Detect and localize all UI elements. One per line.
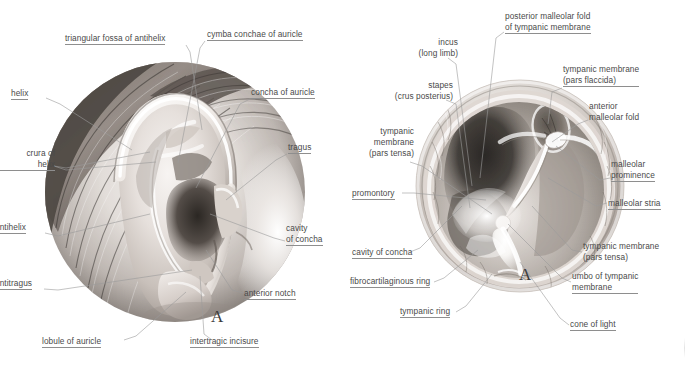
label-line: prominence (611, 170, 655, 182)
label-posterior-malleolar-fold: posterior malleolar fold of tympanic mem… (505, 11, 591, 34)
label-line: cavity (286, 223, 323, 234)
label-tympanic-membrane-pars-tensa-right: tympanic membrane (pars tensa) (583, 241, 659, 263)
label-line: (long limb) (408, 48, 458, 59)
label-tympanic-membrane-pars-tensa-left: tympanic membrane (pars tensa) (356, 126, 414, 159)
label-line: promontory (352, 188, 395, 200)
label-line: cavity of concha (352, 247, 412, 259)
label-tympanic-ring: tympanic ring (400, 306, 450, 318)
label-line: anterior (589, 101, 639, 112)
label-cymba-conchae-of-auricle: cymba conchae of auricle (207, 29, 303, 41)
label-line: posterior malleolar fold (505, 11, 591, 22)
label-anterior-malleolar-fold: anterior malleolar fold (589, 101, 639, 123)
edge-artifact (684, 338, 685, 358)
label-line: cone of light (570, 319, 616, 331)
label-umbo-of-tympanic-membrane: umbo of tympanic membrane (572, 271, 638, 294)
label-line: malleolar stria (608, 198, 661, 210)
label-stapes-crus-posterius: stapes (crus posterius) (373, 80, 453, 102)
label-line: (pars flaccida) (563, 75, 639, 87)
label-line: lobule of auricle (42, 336, 101, 348)
label-antihelix: antihelix (0, 222, 26, 234)
label-line: tympanic membrane (563, 64, 639, 75)
label-line: membrane (356, 137, 414, 148)
label-line: tympanic ring (400, 306, 450, 318)
label-cavity-of-concha: cavity of concha (286, 223, 323, 246)
label-line: of tympanic membrane (505, 22, 591, 34)
label-line: incus (408, 37, 458, 48)
label-line: antihelix (0, 222, 26, 234)
anatomy-plate: triangular fossa of antihelix cymba conc… (0, 0, 688, 367)
label-line: fibrocartilaginous ring (350, 276, 430, 288)
label-line: helix (0, 159, 55, 171)
label-line: umbo of tympanic (572, 271, 638, 282)
panel-letter-a-right: A (519, 265, 531, 285)
label-line: anterior notch (244, 288, 296, 300)
label-triangular-fossa-of-antihelix: triangular fossa of antihelix (65, 33, 165, 45)
label-malleolar-prominence: malleolar prominence (611, 159, 655, 182)
label-cone-of-light: cone of light (570, 319, 616, 331)
panel-letter-a-left: A (211, 307, 223, 327)
label-line: helix (11, 88, 28, 100)
label-tragus: tragus (288, 142, 311, 154)
label-cavity-of-concha-right: cavity of concha (352, 247, 412, 259)
label-anterior-notch: anterior notch (244, 288, 296, 300)
label-line: malleolar fold (589, 112, 639, 123)
label-incus-long-limb: incus (long limb) (408, 37, 458, 59)
label-line: concha of auricle (251, 87, 315, 99)
label-line: (pars tensa) (583, 252, 659, 263)
label-line: tympanic membrane (583, 241, 659, 252)
label-line: membrane (572, 282, 638, 294)
label-fibrocartilaginous-ring: fibrocartilaginous ring (350, 276, 430, 288)
label-line: antitragus (0, 278, 32, 290)
label-line: malleolar (611, 159, 655, 170)
label-antitragus: antitragus (0, 278, 32, 290)
illustration-artwork (0, 0, 688, 367)
label-crura-of-helix: crura of helix (0, 148, 55, 171)
label-line: cymba conchae of auricle (207, 29, 303, 41)
label-intertragic-incisure: intertragic incisure (190, 336, 259, 348)
label-lobule-of-auricle: lobule of auricle (42, 336, 101, 348)
label-promontory: promontory (352, 188, 395, 200)
label-line: (pars tensa) (356, 148, 414, 159)
label-helix: helix (11, 88, 28, 100)
label-malleolar-stria: malleolar stria (608, 198, 661, 210)
label-line: intertragic incisure (190, 336, 259, 348)
label-line: tragus (288, 142, 311, 154)
label-concha-of-auricle: concha of auricle (251, 87, 315, 99)
label-line: triangular fossa of antihelix (65, 33, 165, 45)
label-tympanic-membrane-pars-flaccida: tympanic membrane (pars flaccida) (563, 64, 639, 87)
label-line: tympanic (356, 126, 414, 137)
label-line: stapes (373, 80, 453, 91)
label-line: (crus posterius) (373, 91, 453, 102)
label-line: of concha (286, 234, 323, 246)
label-line: crura of (0, 148, 55, 159)
